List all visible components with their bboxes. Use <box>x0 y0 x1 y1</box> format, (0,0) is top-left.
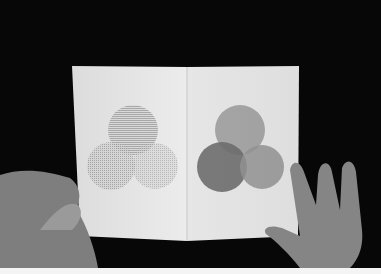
bottom-border <box>0 268 381 274</box>
right-bottom-left-circle <box>197 142 247 192</box>
book-scene <box>0 0 381 268</box>
left-bottom-right-circle <box>132 143 178 189</box>
photo <box>0 0 381 268</box>
right-bottom-right-circle <box>240 145 284 189</box>
left-bottom-left-circle <box>87 142 135 190</box>
